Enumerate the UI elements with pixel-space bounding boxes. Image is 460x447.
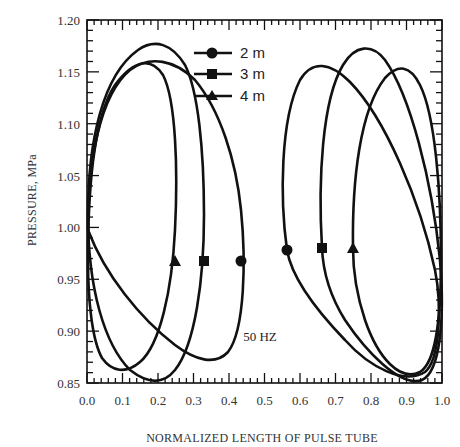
curve-2m-left bbox=[88, 61, 244, 360]
x-tick-label: 0.5 bbox=[256, 393, 272, 408]
x-tick-label: 0.1 bbox=[114, 393, 130, 408]
curve-2m-right bbox=[283, 66, 439, 376]
y-tick-label: 1.00 bbox=[57, 220, 80, 235]
y-tick-label: 1.15 bbox=[57, 65, 80, 80]
curve-4m-right bbox=[353, 69, 441, 375]
legend: 2 m 3 m 4 m bbox=[194, 44, 265, 104]
triangle-marker-4m-left bbox=[169, 255, 181, 266]
y-tick-label: 0.95 bbox=[57, 272, 80, 287]
legend-label: 2 m bbox=[240, 44, 265, 61]
curve-3m-left bbox=[88, 44, 204, 381]
y-axis-title: PRESSURE, MPa bbox=[25, 154, 39, 246]
legend-item-2m: 2 m bbox=[194, 44, 265, 61]
x-tick-labels: 0.0 0.1 0.2 0.3 0.4 0.5 0.6 0.7 0.8 0.9 … bbox=[79, 393, 450, 408]
y-tick-label: 0.85 bbox=[57, 376, 80, 391]
circle-marker-icon bbox=[207, 48, 218, 59]
x-tick-label: 0.7 bbox=[327, 393, 344, 408]
x-tick-label: 0.0 bbox=[79, 393, 95, 408]
y-tick-label: 1.20 bbox=[57, 13, 80, 28]
x-tick-label: 1.0 bbox=[434, 393, 450, 408]
x-axis-title: NORMALIZED LENGTH OF PULSE TUBE bbox=[146, 431, 378, 445]
x-tick-label: 0.8 bbox=[363, 393, 379, 408]
legend-label: 3 m bbox=[240, 65, 265, 82]
y-tick-labels: 1.20 1.15 1.10 1.05 1.00 0.95 0.90 0.85 bbox=[57, 13, 80, 391]
right-loops bbox=[283, 49, 442, 382]
legend-item-4m: 4 m bbox=[194, 87, 265, 104]
y-tick-label: 0.90 bbox=[57, 324, 80, 339]
y-tick-label: 1.05 bbox=[57, 169, 80, 184]
pressure-vs-length-chart: 1.20 1.15 1.10 1.05 1.00 0.95 0.90 0.85 … bbox=[0, 0, 460, 447]
square-marker-3m-right bbox=[317, 243, 327, 253]
x-tick-label: 0.2 bbox=[150, 393, 166, 408]
triangle-marker-4m-right bbox=[347, 242, 359, 253]
square-marker-icon bbox=[207, 69, 217, 79]
square-marker-3m-left bbox=[199, 256, 209, 266]
circle-marker-2m-right bbox=[282, 245, 293, 256]
x-tick-label: 0.4 bbox=[221, 393, 238, 408]
y-tick-label: 1.10 bbox=[57, 117, 80, 132]
circle-marker-2m-left bbox=[236, 256, 247, 267]
x-tick-label: 0.9 bbox=[398, 393, 414, 408]
left-loops bbox=[88, 44, 244, 381]
legend-item-3m: 3 m bbox=[194, 65, 265, 82]
x-tick-label: 0.6 bbox=[292, 393, 309, 408]
markers bbox=[169, 242, 359, 267]
curve-3m-right bbox=[321, 49, 442, 382]
legend-label: 4 m bbox=[240, 87, 265, 104]
frequency-annotation: 50 HZ bbox=[243, 329, 277, 344]
x-tick-label: 0.3 bbox=[185, 393, 201, 408]
